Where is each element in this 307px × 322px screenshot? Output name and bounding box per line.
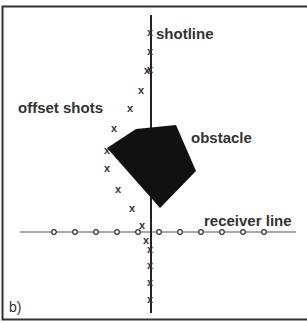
shot-marker: x <box>147 259 154 271</box>
label-receiver-line: receiver line <box>204 213 292 228</box>
shot-marker: x <box>144 64 151 76</box>
receiver-marker <box>73 230 78 235</box>
label-shotline: shotline <box>156 26 214 41</box>
label-obstacle: obstacle <box>191 130 252 145</box>
shot-marker: x <box>147 276 154 288</box>
receiver-marker <box>220 230 225 235</box>
shot-marker: x <box>127 102 134 114</box>
shot-marker: x <box>143 234 150 246</box>
shot-marker: x <box>138 84 145 96</box>
receiver-marker <box>115 230 120 235</box>
obstacle-shape <box>107 125 196 208</box>
shot-marker: x <box>115 183 122 195</box>
shot-marker: x <box>111 122 118 134</box>
receiver-marker <box>262 230 267 235</box>
receiver-marker <box>157 230 162 235</box>
shot-marker: x <box>129 202 136 214</box>
panel-label: b) <box>9 300 21 314</box>
shot-marker: x <box>147 293 154 305</box>
receiver-marker <box>199 230 204 235</box>
shot-marker: x <box>104 162 111 174</box>
shot-marker: x <box>147 45 154 57</box>
shot-marker: x <box>139 219 146 231</box>
shot-marker: x <box>147 26 154 38</box>
receiver-marker <box>52 230 57 235</box>
receiver-marker <box>178 230 183 235</box>
receiver-marker <box>94 230 99 235</box>
label-offset-shots: offset shots <box>18 100 103 115</box>
receiver-marker <box>241 230 246 235</box>
diagram-canvas: xxxxxxxxxxxxxxxxx <box>0 0 307 322</box>
shot-marker: x <box>104 144 111 156</box>
